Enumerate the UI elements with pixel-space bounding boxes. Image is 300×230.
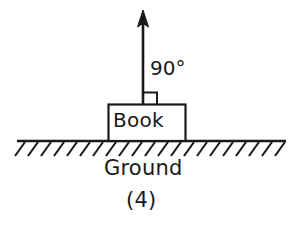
ground-hatch-icon: [15, 142, 285, 156]
physics-diagram-figure: 90° Book Ground (4): [0, 0, 300, 230]
right-angle-marker-icon: [143, 93, 157, 105]
ground-label: Ground: [104, 158, 182, 179]
figure-number-caption: (4): [126, 190, 156, 211]
angle-label: 90°: [150, 58, 185, 78]
book-label: Book: [113, 110, 164, 130]
